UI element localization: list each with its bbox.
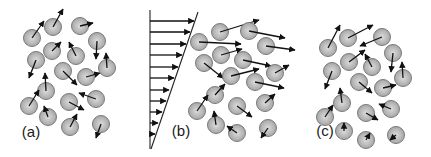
panel-c-relaxed-orientation: (c) <box>316 25 411 149</box>
particle <box>241 23 286 40</box>
panel-a-random-orientation: (a) <box>21 9 116 140</box>
particle <box>24 21 45 47</box>
particle <box>72 18 94 35</box>
particle <box>375 80 397 97</box>
particle <box>267 65 290 82</box>
particle <box>207 84 226 104</box>
panel-a-label: (a) <box>22 123 40 140</box>
panel-c-label: (c) <box>316 122 334 139</box>
panel-b-shear-flow: (b) <box>150 10 295 149</box>
particle <box>78 69 101 86</box>
particle <box>320 25 341 57</box>
particle <box>38 73 55 100</box>
particle <box>388 127 405 144</box>
particle <box>229 98 253 118</box>
particle <box>40 106 57 126</box>
particle <box>334 88 351 112</box>
panel-a-particles <box>21 9 116 138</box>
particle <box>68 42 85 65</box>
particle <box>341 50 366 71</box>
particle <box>89 33 106 60</box>
panel-b-label: (b) <box>172 122 190 139</box>
particle <box>395 62 412 87</box>
particle <box>351 74 373 94</box>
particle <box>324 63 341 90</box>
particle <box>360 29 391 47</box>
particle <box>45 9 64 36</box>
particle <box>93 116 110 139</box>
particle <box>358 105 379 122</box>
particle <box>44 42 62 60</box>
particle <box>336 123 353 140</box>
particle <box>385 45 402 73</box>
particle <box>227 125 246 142</box>
particle <box>21 90 40 115</box>
particle-circle <box>260 120 277 137</box>
particle <box>258 38 296 55</box>
particle <box>79 91 105 108</box>
particle <box>379 101 400 118</box>
particle <box>61 94 85 111</box>
particle <box>257 94 276 112</box>
particle <box>55 63 78 86</box>
particle <box>364 54 381 76</box>
panel-b-particles <box>189 20 296 142</box>
particle <box>99 53 116 77</box>
particle <box>208 111 225 134</box>
particle-orientation-figure: (a) (b) (c) <box>0 0 431 157</box>
particle <box>358 132 375 149</box>
figure-canvas: (a) (b) (c) <box>0 0 431 157</box>
particle <box>189 95 209 120</box>
particle <box>28 52 45 79</box>
particle <box>260 120 277 139</box>
particle <box>62 114 79 136</box>
